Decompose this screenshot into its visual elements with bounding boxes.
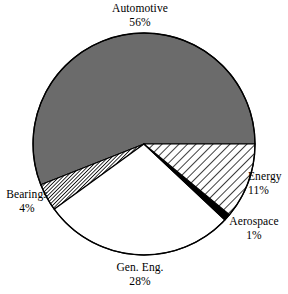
- pie-chart-svg: [0, 0, 288, 294]
- slice-label-aerospace-percent: 1%: [222, 229, 286, 243]
- slice-label-automotive-name: Automotive: [90, 2, 190, 16]
- slice-label-energy-name: Energy: [248, 170, 288, 184]
- slice-label-gen-eng: Gen. Eng. 28%: [98, 261, 182, 288]
- slice-label-automotive: Automotive 56%: [90, 2, 190, 29]
- slice-label-aerospace: Aerospace 1%: [222, 215, 286, 242]
- slice-label-aerospace-name: Aerospace: [222, 215, 286, 229]
- slice-label-gen-eng-percent: 28%: [98, 275, 182, 289]
- slice-label-energy-percent: 11%: [248, 184, 288, 198]
- slice-label-automotive-percent: 56%: [90, 16, 190, 30]
- slice-label-energy: Energy 11%: [248, 170, 288, 197]
- pie-chart: Automotive 56% Energy 11% Aerospace 1% B…: [0, 0, 288, 294]
- slice-label-bearings-name: Bearings: [0, 188, 54, 202]
- slice-label-bearings: Bearings 4%: [0, 188, 54, 215]
- slice-label-bearings-percent: 4%: [0, 202, 54, 216]
- slice-label-gen-eng-name: Gen. Eng.: [98, 261, 182, 275]
